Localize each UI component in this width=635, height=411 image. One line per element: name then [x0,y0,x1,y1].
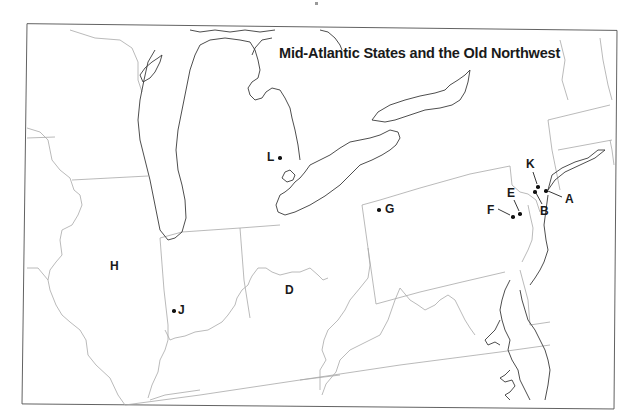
coastlines [138,30,605,400]
map-frame-border [22,24,617,409]
point-K [536,185,540,189]
map: Mid-Atlantic States and the Old Northwes… [0,0,635,411]
page-mark [315,2,318,5]
label-F: F [487,204,494,216]
label-J: H [110,260,119,272]
point-F [511,215,515,219]
point-H [172,309,176,313]
point-L [278,156,282,160]
label-K: K [526,158,535,170]
point-B [533,190,537,194]
label-L: L [267,151,274,163]
label-H: J [178,304,185,316]
label-G: G [385,203,394,215]
map-title: Mid-Atlantic States and the Old Northwes… [279,45,560,61]
point-E [518,212,522,216]
label-E: E [507,187,515,199]
label-A: A [565,193,574,205]
state-borders [27,30,614,405]
point-A [544,189,548,193]
label-B: B [540,205,549,217]
point-G [377,208,381,212]
label-D: D [285,284,294,296]
